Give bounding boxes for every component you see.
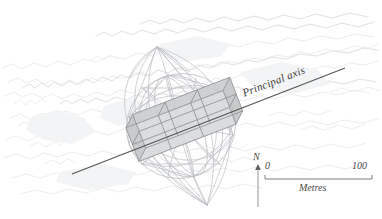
figure-canvas: Principal axis N 0 100 Metres (0, 0, 382, 219)
scale-min-label: 0 (265, 161, 270, 171)
scale-bar (265, 175, 372, 179)
scale-unit-label: Metres (299, 183, 326, 193)
principal-axis-line (72, 68, 345, 174)
north-label: N (253, 152, 260, 162)
north-arrow (255, 164, 261, 207)
scale-max-label: 100 (352, 161, 367, 171)
